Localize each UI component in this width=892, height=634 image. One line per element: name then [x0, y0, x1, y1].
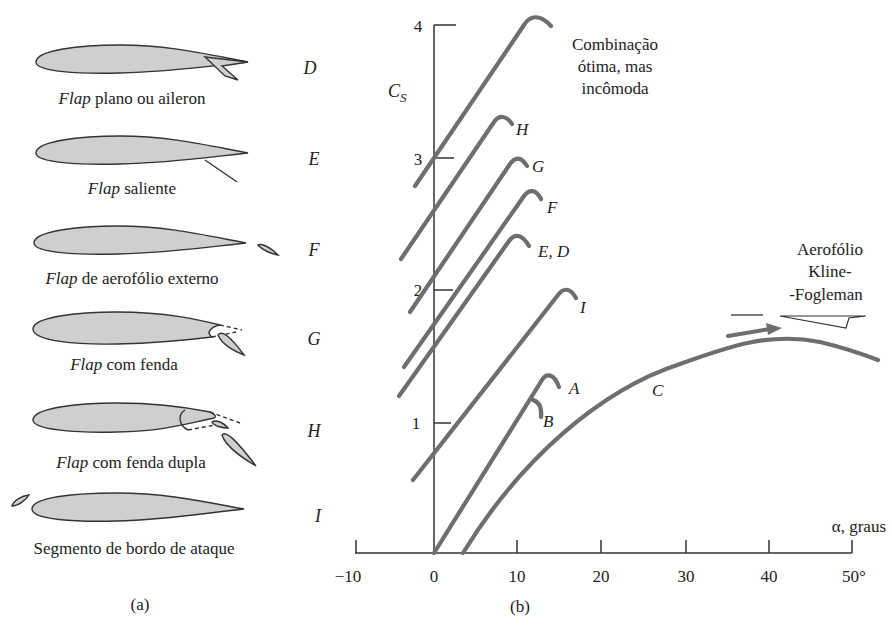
airfoil-split-flap: [36, 136, 248, 182]
letter-i: I: [314, 506, 322, 526]
caption-plain-flap: Flap plano ou aileron: [58, 89, 206, 108]
svg-text:-Fogleman: -Fogleman: [789, 285, 863, 304]
panel-a: Flap plano ou aileron Flap saliente Flap…: [12, 45, 322, 614]
x-tick-label: 0: [430, 567, 439, 586]
caption-panel-a: (a): [131, 595, 150, 614]
x-tick-label: −10: [335, 567, 362, 586]
annotation-kline-fogleman: Aerofólio Kline- -Fogleman: [728, 240, 866, 336]
svg-text:ótima, mas: ótima, mas: [578, 57, 653, 76]
label-curve-g: G: [532, 157, 544, 176]
x-tick-label: 50°: [842, 567, 866, 586]
letter-f: F: [308, 240, 321, 260]
airfoil-plain-flap: [36, 45, 248, 80]
x-tick-label: 20: [593, 567, 610, 586]
letter-d: D: [303, 58, 317, 78]
x-axis-label: α, graus: [832, 517, 886, 536]
label-curve-a: A: [568, 379, 580, 398]
curve-a: [434, 375, 559, 553]
label-curve-f: F: [546, 198, 558, 217]
label-curve-e-d: E, D: [537, 242, 570, 261]
arrow-right-icon: [766, 323, 782, 335]
caption-double-slotted-flap: Flap com fenda dupla: [55, 453, 206, 472]
x-tick-label: 30: [678, 567, 695, 586]
caption-external-flap: Flap de aerofólio externo: [44, 269, 218, 288]
caption-leading-edge-slat: Segmento de bordo de ataque: [33, 539, 234, 558]
y-tick-label: 4: [414, 17, 423, 36]
curve-c: [463, 339, 878, 553]
curve-b: [533, 400, 541, 417]
y-tick-label: 1: [412, 414, 421, 433]
svg-text:Combinação: Combinação: [572, 35, 658, 54]
airfoil-external-flap: [34, 226, 278, 255]
kf-airfoil-icon: [780, 316, 866, 328]
curve-optimal-combination: [415, 17, 551, 186]
y-tick-label: 3: [414, 150, 423, 169]
figure: Flap plano ou aileron Flap saliente Flap…: [0, 0, 892, 634]
caption-slotted-flap: Flap com fenda: [69, 355, 178, 374]
panel-b: −10 0 10 20 30 40 50° 1 2 3 4 CS α, grau…: [335, 17, 886, 616]
label-curve-b: B: [543, 412, 554, 431]
axes: [355, 25, 852, 553]
kf-arrow-shaft: [728, 329, 770, 336]
svg-text:Kline-: Kline-: [808, 262, 852, 281]
y-axis-label: CS: [388, 81, 407, 105]
airfoil-slotted-flap: [33, 312, 244, 355]
letter-g: G: [308, 329, 321, 349]
letter-e: E: [308, 149, 320, 169]
annotation-optimal-combination: Combinação ótima, mas incômoda: [572, 35, 658, 98]
label-curve-c: C: [652, 381, 664, 400]
caption-panel-b: (b): [510, 597, 530, 616]
curve-g: [410, 159, 527, 312]
label-curve-h: H: [515, 120, 530, 139]
label-curve-i: I: [579, 298, 587, 317]
x-tick-label: 10: [509, 567, 526, 586]
svg-text:incômoda: incômoda: [581, 79, 648, 98]
letter-h: H: [307, 421, 322, 441]
x-tick-label: 40: [761, 567, 778, 586]
caption-split-flap: Flap saliente: [87, 179, 176, 198]
airfoil-leading-edge-slat: [12, 493, 244, 521]
curve-e-d: [399, 236, 529, 396]
svg-text:Aerofólio: Aerofólio: [797, 240, 863, 259]
